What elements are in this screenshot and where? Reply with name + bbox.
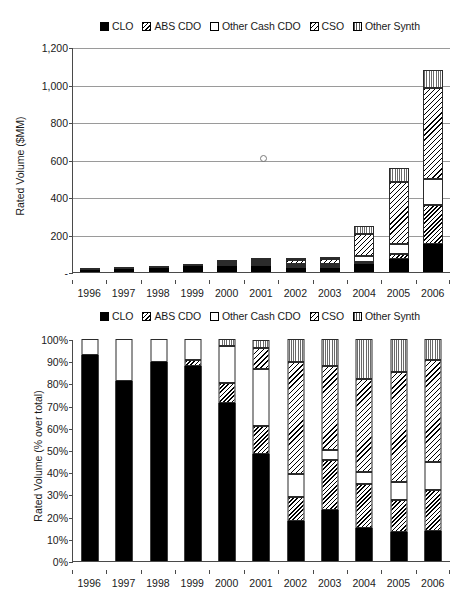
x-tick: 1999 (175, 280, 209, 299)
x-tick: 1999 (175, 570, 209, 589)
stacked-bar (149, 266, 169, 272)
bar-segment-clo (217, 266, 237, 272)
legend-label: Other Cash CDO (222, 20, 301, 32)
bar-segment-synth (354, 226, 374, 234)
x-tick-label: 1996 (72, 570, 106, 589)
legend-item-clo: CLO (100, 310, 133, 322)
bar-segment-synth (424, 339, 441, 360)
bar-slot (73, 340, 107, 561)
x-tick-label: 2004 (347, 570, 381, 589)
x-tick-label: 2003 (313, 280, 347, 299)
bar-slot (347, 48, 381, 272)
share-chart-y-axis-label: Rated Volume (% over total) (32, 366, 44, 546)
bar-segment-clo (320, 268, 340, 272)
x-tick-label: 1999 (175, 570, 209, 589)
x-tick-mark (106, 570, 107, 574)
bar-segment-abs (423, 205, 443, 245)
legend-label: ABS CDO (154, 20, 201, 32)
y-tick-mark (69, 273, 73, 274)
bar-segment-clo (424, 531, 441, 561)
bar-segment-cash (424, 462, 441, 490)
bar-segment-cash (321, 450, 338, 460)
bar-segment-clo (356, 528, 373, 561)
share-chart-legend: CLOABS CDOOther Cash CDOCSOOther Synth (60, 308, 460, 324)
x-tick-mark (72, 280, 73, 284)
x-tick-mark (347, 570, 348, 574)
x-tick: 2004 (347, 570, 381, 589)
bar-segment-cso (287, 362, 304, 474)
x-tick-label: 2000 (209, 570, 243, 589)
legend-item-synth: Other Synth (353, 310, 420, 322)
legend-item-cash: Other Cash CDO (210, 20, 301, 32)
x-tick-mark (347, 280, 348, 284)
x-tick-mark (381, 280, 382, 284)
bar-segment-cash (390, 482, 407, 500)
stacked-bar (251, 258, 271, 272)
x-tick: 2002 (278, 570, 312, 589)
empty-white-square-icon (210, 312, 219, 321)
bar-segment-synth (219, 339, 236, 346)
share-chart-x-ticks: 1996199719981999200020012002200320042005… (72, 570, 450, 589)
bar-segment-cash (356, 472, 373, 484)
stacked-bar (82, 339, 99, 561)
bar-slot (313, 340, 347, 561)
stacked-bar (116, 339, 133, 561)
bar-segment-clo (251, 266, 271, 272)
x-tick-mark (278, 570, 279, 574)
x-tick: 2005 (381, 280, 415, 299)
legend-label: Other Synth (365, 310, 420, 322)
x-tick-label: 2002 (278, 280, 312, 299)
stacked-bar (389, 168, 409, 272)
x-tick-mark (106, 280, 107, 284)
bar-segment-cash (150, 339, 167, 362)
bar-segment-synth (321, 339, 338, 366)
legend-item-cso: CSO (310, 20, 344, 32)
bar-segment-synth (390, 339, 407, 372)
x-tick: 2003 (313, 570, 347, 589)
share-chart-plot-area: 0%10%20%30%40%50%60%70%80%90%100% (72, 340, 450, 562)
bar-slot (142, 48, 176, 272)
x-tick-label: 2004 (347, 280, 381, 299)
bar-segment-cash (184, 339, 201, 360)
x-tick-mark (416, 280, 417, 284)
bar-segment-abs (321, 460, 338, 510)
bar-segment-clo (253, 454, 270, 561)
x-tick-mark (141, 280, 142, 284)
x-tick-mark (209, 280, 210, 284)
bar-segment-cash (287, 474, 304, 496)
bar-slot (279, 340, 313, 561)
bar-slot (142, 340, 176, 561)
vertical-line-hatch-square-icon (353, 22, 362, 31)
bar-segment-clo (286, 268, 306, 272)
x-tick: 2000 (209, 280, 243, 299)
legend-item-clo: CLO (100, 20, 133, 32)
stacked-bar (184, 339, 201, 561)
bar-segment-clo (150, 362, 167, 561)
y-tick-mark (69, 562, 73, 563)
bar-segment-cso (356, 379, 373, 472)
bar-segment-clo (390, 532, 407, 561)
bar-segment-clo (287, 521, 304, 561)
stray-circle-marker (260, 155, 267, 162)
stacked-bar (390, 339, 407, 561)
volume-chart-plot-area: -2004006008001,0001,200 (72, 48, 450, 273)
bar-slot (416, 340, 450, 561)
x-tick-mark (449, 570, 450, 574)
legend-item-cash: Other Cash CDO (210, 310, 301, 322)
bar-segment-cso (424, 360, 441, 462)
bar-segment-abs (287, 497, 304, 521)
stacked-bar (424, 339, 441, 561)
bar-segment-cso (321, 366, 338, 450)
bar-slot (73, 48, 107, 272)
x-tick: 2006 (416, 570, 450, 589)
bar-segment-clo (423, 244, 443, 272)
legend-item-synth: Other Synth (353, 20, 420, 32)
bar-segment-synth (389, 168, 409, 182)
stacked-bar (423, 70, 443, 273)
bar-slot (279, 48, 313, 272)
x-tick: 1996 (72, 280, 106, 299)
x-tick: 2002 (278, 280, 312, 299)
volume-chart-y-axis-label: Rated Volume ($MM) (14, 106, 26, 226)
x-tick-label: 2006 (416, 570, 450, 589)
bar-segment-abs (356, 484, 373, 527)
